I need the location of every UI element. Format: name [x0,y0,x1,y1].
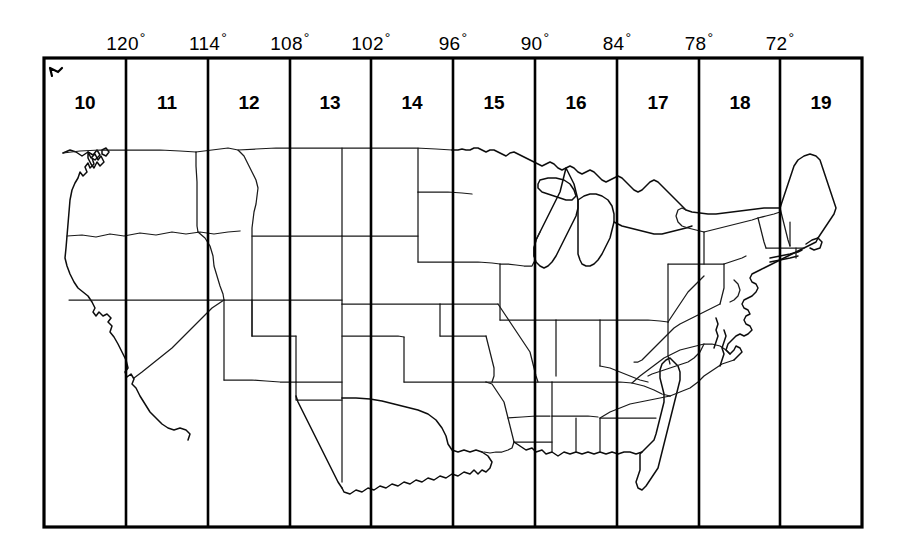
pen-mark-artifact [50,68,62,76]
utm-zone-map-figure: 120°114°108°102°96°90°84°78°72° 10111213… [0,0,901,558]
utm-zone-label-16: 16 [565,93,586,112]
longitude-label-108: 108° [270,31,310,53]
longitude-value: 72 [766,33,788,54]
utm-zone-label-18: 18 [729,93,750,112]
utm-zone-label-10: 10 [74,93,95,112]
degree-symbol-icon: ° [543,30,549,46]
longitude-label-78: 78° [685,31,714,53]
utm-zone-label-11: 11 [157,93,177,112]
utm-zone-label-19: 19 [810,93,831,112]
longitude-value: 96 [439,33,461,54]
degree-symbol-icon: ° [385,30,391,46]
utm-zone-label-13: 13 [319,93,340,112]
longitude-label-114: 114° [189,31,227,53]
longitude-value: 102 [351,33,384,54]
utm-zone-label-17: 17 [647,93,668,112]
longitude-value: 78 [685,33,707,54]
longitude-label-96: 96° [439,31,468,53]
us-state-outlines [63,148,836,494]
degree-symbol-icon: ° [788,30,794,46]
utm-zone-label-14: 14 [401,93,422,112]
degree-symbol-icon: ° [221,30,227,46]
degree-symbol-icon: ° [461,30,467,46]
degree-symbol-icon: ° [707,30,713,46]
degree-symbol-icon: ° [304,30,310,46]
degree-symbol-icon: ° [625,30,631,46]
longitude-value: 114 [189,33,220,54]
degree-symbol-icon: ° [140,30,146,46]
longitude-value: 90 [521,33,543,54]
longitude-value: 108 [270,33,303,54]
longitude-label-120: 120° [106,31,146,53]
longitude-label-72: 72° [766,31,795,53]
longitude-value: 84 [603,33,625,54]
longitude-label-90: 90° [521,31,550,53]
map-canvas [0,0,901,558]
utm-zone-label-15: 15 [483,93,504,112]
longitude-label-84: 84° [603,31,632,53]
utm-zone-gridlines [126,58,780,527]
utm-zone-label-12: 12 [238,93,259,112]
longitude-value: 120 [106,33,139,54]
longitude-label-102: 102° [351,31,391,53]
